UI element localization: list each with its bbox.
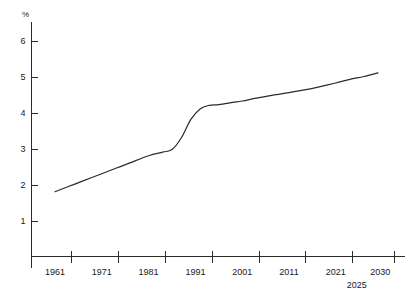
line-chart: % 123456 1961197119811991200120112021203… bbox=[0, 0, 415, 298]
x-tick-label: 2021 bbox=[326, 267, 346, 277]
x-axis-secondary-label: 2025 bbox=[347, 280, 367, 290]
x-tick-label: 1971 bbox=[92, 267, 112, 277]
x-tick-label: 1991 bbox=[185, 267, 205, 277]
y-tick-label: 1 bbox=[20, 216, 25, 226]
x-tick-label: 2001 bbox=[232, 267, 252, 277]
y-tick-label: 2 bbox=[20, 180, 25, 190]
y-tick-label: 3 bbox=[20, 144, 25, 154]
y-tick-label: 4 bbox=[20, 108, 25, 118]
data-series-line bbox=[55, 73, 378, 192]
y-tick-label: 6 bbox=[20, 36, 25, 46]
x-tick-label: 2011 bbox=[279, 267, 298, 277]
x-tick-label: 1961 bbox=[45, 267, 65, 277]
x-axis-tick-labels: 19611971198119912001201120212030 bbox=[45, 267, 390, 277]
x-tick-label: 1981 bbox=[139, 267, 159, 277]
x-tick-label: 2030 bbox=[370, 267, 390, 277]
y-axis-label: % bbox=[22, 10, 29, 19]
y-tick-label: 5 bbox=[20, 72, 25, 82]
chart-container: % 123456 1961197119811991200120112021203… bbox=[0, 0, 415, 298]
y-axis-ticks: 123456 bbox=[20, 36, 37, 226]
